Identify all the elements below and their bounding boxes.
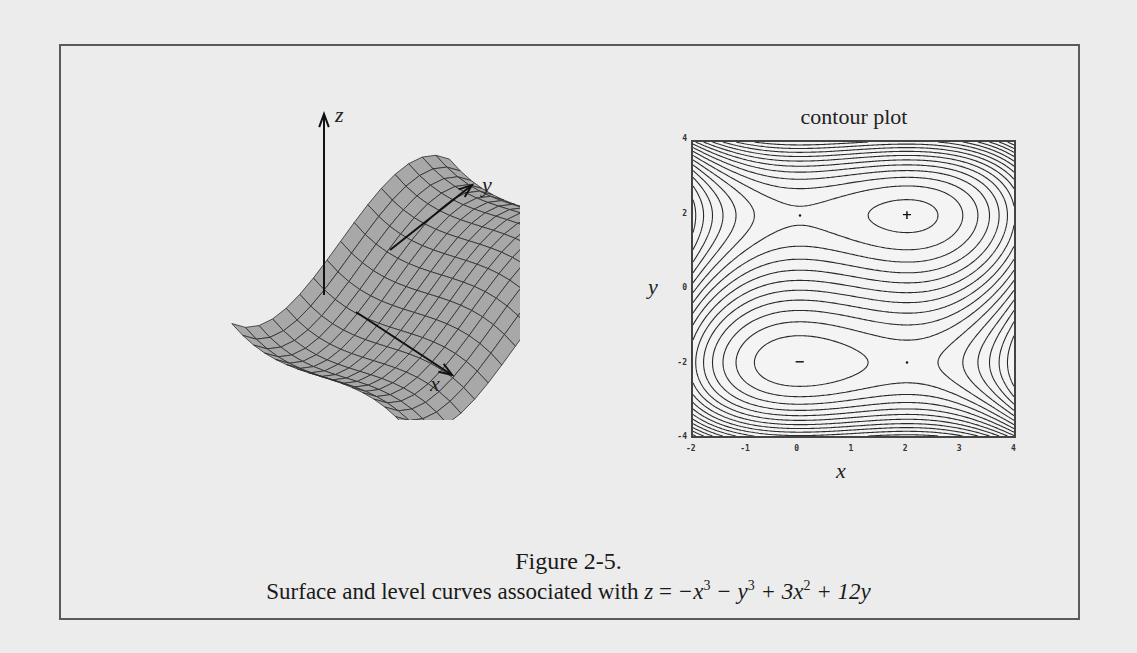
x-tick-label: 1 — [849, 444, 854, 453]
y-tick-label: 0 — [677, 283, 687, 292]
contour-x-label: x — [836, 460, 846, 482]
surface-plot: z y x — [190, 90, 520, 420]
y-tick-label: -2 — [677, 358, 687, 367]
contour-y-label: y — [648, 276, 658, 298]
x-tick-label: -2 — [686, 444, 696, 453]
contour-plot-area — [691, 140, 1016, 438]
surface-y-label: y — [482, 174, 492, 196]
surface-z-label: z — [335, 104, 344, 126]
x-tick-label: 4 — [1011, 444, 1016, 453]
y-tick-label: 4 — [677, 134, 687, 143]
contour-graphic — [693, 142, 1014, 436]
x-tick-label: 3 — [957, 444, 962, 453]
y-tick-label: 2 — [677, 209, 687, 218]
x-tick-label: 2 — [903, 444, 908, 453]
caption-prefix: Surface and level curves associated with — [266, 579, 638, 604]
x-tick-label: -1 — [740, 444, 750, 453]
x-tick-label: 0 — [794, 444, 799, 453]
contour-title: contour plot — [691, 104, 1017, 130]
surface-x-label: x — [430, 373, 440, 395]
figure-number: Figure 2-5. — [59, 548, 1078, 575]
y-tick-label: -4 — [677, 432, 687, 441]
figure-caption: Surface and level curves associated with… — [59, 578, 1078, 605]
surface-graphic — [190, 90, 520, 420]
caption-equation: z = −x3 − y3 + 3x2 + 12y — [644, 579, 870, 604]
